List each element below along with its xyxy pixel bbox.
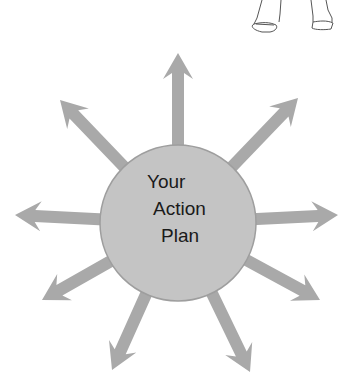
arrow-left-icon — [15, 201, 104, 231]
center-label-line-1: Your — [147, 171, 186, 192]
arrow-up-icon — [163, 53, 193, 149]
arrow-upper-left-icon — [60, 100, 131, 174]
action-plan-diagram: Your Action Plan — [0, 0, 358, 378]
center-label-line-3: Plan — [161, 225, 199, 246]
center-circle — [100, 145, 256, 301]
arrow-bottom-left-icon — [109, 288, 153, 370]
feet-sketch-icon — [252, 0, 333, 32]
center-label-line-2: Action — [153, 198, 206, 219]
arrow-upper-right-icon — [225, 98, 298, 174]
arrow-right-icon — [252, 201, 338, 231]
arrow-lower-right-icon — [240, 253, 320, 301]
arrow-lower-left-icon — [42, 254, 117, 300]
arrow-bottom-right-icon — [205, 287, 252, 372]
